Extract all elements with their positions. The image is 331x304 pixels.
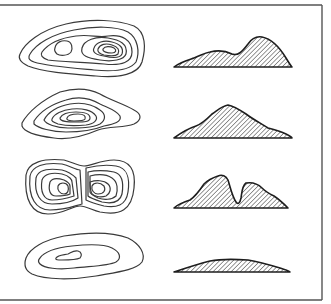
profile-row-4: Profile: low flat mound (174, 259, 290, 272)
profile-row-2: Profile: single symmetric peak (174, 105, 292, 138)
contour-map-row-1: Elongated hill with two summits (higher … (19, 20, 144, 76)
landform-diagram: Elongated hill with two summits (higher … (0, 0, 331, 304)
profile-row-1: Profile: low left hump, high right peak (174, 37, 292, 67)
contour-map-row-4: Low broad rise with few contours (25, 233, 143, 279)
profile-row-3: Profile: twin peaks with deep notch (174, 175, 288, 208)
contour-map-row-3: Two summits separated by a narrow steep … (26, 160, 135, 214)
contour-map-row-2: Single-summit hill, irregular concentric… (22, 89, 140, 138)
